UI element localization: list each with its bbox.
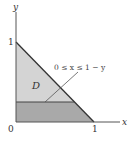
horizontal-strip bbox=[16, 102, 94, 122]
y-tick-label: 1 bbox=[8, 37, 14, 47]
region-diagram: y 1 0 1 x D 0 ≤ x ≤ 1 − y bbox=[0, 0, 131, 145]
diagram-canvas: y 1 0 1 x D 0 ≤ x ≤ 1 − y bbox=[0, 0, 131, 145]
strip-bounds-annotation: 0 ≤ x ≤ 1 − y bbox=[54, 63, 106, 72]
origin-label: 0 bbox=[8, 124, 14, 134]
x-tick-label: 1 bbox=[92, 124, 98, 134]
y-axis-label: y bbox=[12, 2, 19, 12]
x-axis-label: x bbox=[122, 117, 127, 127]
region-d-label: D bbox=[31, 80, 40, 91]
